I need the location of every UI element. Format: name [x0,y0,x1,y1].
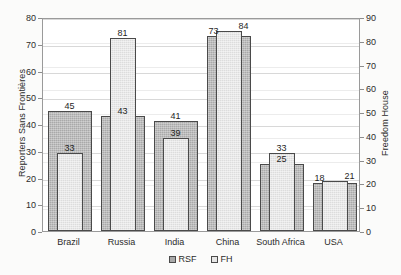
y-axis-right-tick-label: 80 [366,37,396,47]
y-axis-right-tick-label: 20 [366,179,396,189]
y-axis-left-tick-label: 80 [6,13,36,23]
gridline-minor [43,90,359,91]
y-axis-left-tick-mark [38,232,42,233]
data-label-fh: 33 [262,143,302,154]
y-axis-right-tick-mark [360,137,364,138]
bar-fh [110,38,136,231]
y-axis-right-tick-mark [360,161,364,162]
data-label-rsf: 45 [50,101,90,112]
data-label-rsf: 41 [156,111,196,122]
legend-label: RSF [179,254,197,264]
data-label-fh: 81 [103,28,143,39]
data-label-fh: 84 [224,21,264,32]
gridline-minor [43,43,359,44]
y-axis-left-tick-label: 70 [6,40,36,50]
y-axis-left-tick-label: 60 [6,67,36,77]
gridline [43,19,359,20]
legend-label: FH [221,254,233,264]
data-label-rsf: 25 [262,154,302,165]
y-axis-right-tick-label: 60 [366,84,396,94]
legend-swatch-icon [211,256,218,263]
gridline [43,46,359,47]
y-axis-right-tick-label: 10 [366,203,396,213]
y-axis-left-tick-label: 50 [6,93,36,103]
y-axis-right-tick-label: 50 [366,108,396,118]
y-axis-right-tick-mark [360,18,364,19]
plot-area: 453343814139738425331821 [42,18,360,232]
y-axis-right-tick-mark [360,113,364,114]
bar-fh [216,31,242,231]
legend-item-rsf[interactable]: RSF [169,254,197,264]
chart-legend: RSFFH [0,254,401,264]
y-axis-right-tick-label: 70 [366,61,396,71]
data-label-fh: 21 [330,171,370,182]
legend-swatch-icon [169,256,176,263]
y-axis-right-tick-mark [360,232,364,233]
y-axis-left-tick-label: 20 [6,174,36,184]
y-axis-left-tick-label: 10 [6,200,36,210]
bar-fh [163,138,189,231]
y-axis-right-tick-label: 90 [366,13,396,23]
legend-item-fh[interactable]: FH [211,254,233,264]
y-axis-right-tick-mark [360,42,364,43]
gridline-minor [43,67,359,68]
y-axis-right-tick-mark [360,89,364,90]
bar-fh [57,153,83,231]
y-axis-right-title: Freedom House [380,53,390,193]
data-label-fh: 39 [156,128,196,139]
chart-container: Reporters Sans Frontières Freedom House … [0,0,401,275]
gridline [43,73,359,74]
data-label-rsf: 43 [103,106,143,117]
y-axis-right-tick-label: 40 [366,132,396,142]
y-axis-left-tick-label: 40 [6,120,36,130]
y-axis-right-tick-mark [360,208,364,209]
bar-fh [322,181,348,231]
gridline [43,99,359,100]
y-axis-right-tick-mark [360,66,364,67]
y-axis-right-tick-label: 30 [366,156,396,166]
y-axis-left-tick-label: 30 [6,147,36,157]
y-axis-right-tick-mark [360,184,364,185]
x-axis-category-label: USA [294,236,374,248]
data-label-fh: 33 [50,143,90,154]
